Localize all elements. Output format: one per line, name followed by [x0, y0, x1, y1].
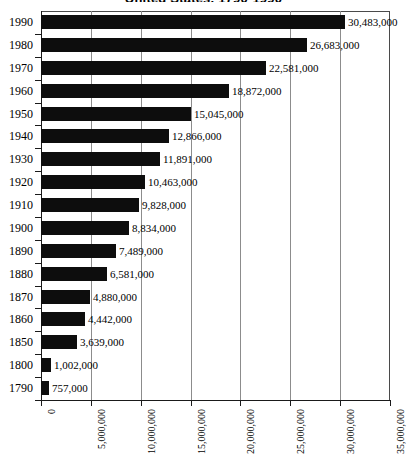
y-axis-category-label: 1870 — [0, 288, 33, 306]
x-axis-tick — [141, 400, 142, 406]
bar-row: 18907,489,000 — [0, 240, 407, 263]
bar-value-label: 30,483,000 — [348, 13, 398, 31]
bar-row: 18704,880,000 — [0, 286, 407, 309]
bar-value-label: 26,683,000 — [310, 36, 360, 54]
bar-row: 193011,891,000 — [0, 148, 407, 171]
y-axis-category-label: 1880 — [0, 265, 33, 283]
y-axis-category-label: 1800 — [0, 356, 33, 374]
y-axis-tick — [35, 400, 41, 401]
y-axis-category-label: 1950 — [0, 105, 33, 123]
y-axis-category-label: 1940 — [0, 127, 33, 145]
y-axis-category-label: 1860 — [0, 310, 33, 328]
x-axis-tick — [41, 400, 42, 406]
bar — [41, 15, 345, 29]
x-axis-tick — [240, 400, 241, 406]
bar-row: 18503,639,000 — [0, 331, 407, 354]
y-axis-category-label: 1930 — [0, 150, 33, 168]
bar-value-label: 8,834,000 — [132, 219, 176, 237]
x-axis-tick-label: 20,000,000 — [245, 409, 256, 454]
y-axis-category-label: 1920 — [0, 173, 33, 191]
y-axis-category-label: 1850 — [0, 333, 33, 351]
bar — [41, 38, 307, 52]
x-axis-tick-label: 25,000,000 — [295, 409, 306, 454]
bar — [41, 152, 160, 166]
bar-row: 18604,442,000 — [0, 308, 407, 331]
bar — [41, 358, 51, 372]
bar — [41, 84, 229, 98]
x-axis-tick-label: 35,000,000 — [395, 409, 406, 454]
bar — [41, 312, 85, 326]
chart-title: United States, 1790-1990 — [0, 0, 407, 2]
bar-value-label: 9,828,000 — [142, 196, 186, 214]
bar — [41, 129, 169, 143]
bar-row: 198026,683,000 — [0, 34, 407, 57]
bar-row: 194012,866,000 — [0, 125, 407, 148]
bar-value-label: 11,891,000 — [163, 150, 212, 168]
x-axis-tick — [390, 400, 391, 406]
x-axis-tick-label: 5,000,000 — [96, 409, 107, 449]
bar — [41, 221, 129, 235]
bar-value-label: 4,442,000 — [88, 310, 132, 328]
bar-row: 18001,002,000 — [0, 354, 407, 377]
bar-value-label: 22,581,000 — [269, 59, 319, 77]
y-axis-category-label: 1990 — [0, 13, 33, 31]
y-axis-category-label: 1980 — [0, 36, 33, 54]
bar — [41, 267, 107, 281]
bar — [41, 175, 145, 189]
x-axis-tick-label: 10,000,000 — [146, 409, 157, 454]
bar-value-label: 10,463,000 — [148, 173, 198, 191]
bar-value-label: 7,489,000 — [119, 242, 163, 260]
bar — [41, 381, 49, 395]
y-axis-category-label: 1790 — [0, 379, 33, 397]
bar-row: 195015,045,000 — [0, 103, 407, 126]
x-axis-tick — [191, 400, 192, 406]
x-axis-tick-label: 30,000,000 — [345, 409, 356, 454]
y-axis-category-label: 1970 — [0, 59, 33, 77]
y-axis-category-label: 1910 — [0, 196, 33, 214]
bar-chart: United States, 1790-1990 199030,483,0001… — [0, 0, 407, 468]
x-axis-line — [41, 400, 390, 401]
y-axis-category-label: 1890 — [0, 242, 33, 260]
bar-row: 199030,483,000 — [0, 11, 407, 34]
bar-row: 1790757,000 — [0, 377, 407, 400]
x-axis-tick — [340, 400, 341, 406]
x-axis-tick — [290, 400, 291, 406]
bar-value-label: 18,872,000 — [232, 82, 282, 100]
y-axis-category-label: 1900 — [0, 219, 33, 237]
bar — [41, 61, 266, 75]
bar — [41, 107, 191, 121]
x-axis-tick-label: 0 — [46, 409, 57, 414]
bar-row: 19109,828,000 — [0, 194, 407, 217]
x-axis-tick — [91, 400, 92, 406]
bar-value-label: 12,866,000 — [172, 127, 222, 145]
bar — [41, 244, 116, 258]
bar-value-label: 3,639,000 — [80, 333, 124, 351]
bar-row: 196018,872,000 — [0, 80, 407, 103]
bar-row: 197022,581,000 — [0, 57, 407, 80]
bar-value-label: 15,045,000 — [194, 105, 244, 123]
x-axis-tick-label: 15,000,000 — [196, 409, 207, 454]
y-axis-category-label: 1960 — [0, 82, 33, 100]
bar — [41, 198, 139, 212]
bar-row: 18806,581,000 — [0, 263, 407, 286]
bar — [41, 290, 90, 304]
bar-value-label: 757,000 — [52, 379, 88, 397]
bar-row: 192010,463,000 — [0, 171, 407, 194]
bar-row: 19008,834,000 — [0, 217, 407, 240]
bar-value-label: 1,002,000 — [54, 356, 98, 374]
bar-value-label: 6,581,000 — [110, 265, 154, 283]
bar-value-label: 4,880,000 — [93, 288, 137, 306]
bar — [41, 335, 77, 349]
